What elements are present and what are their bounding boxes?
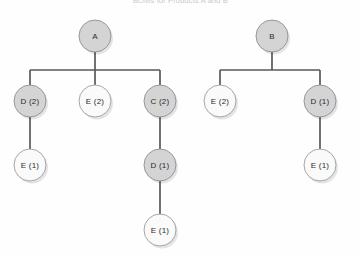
node-b-root-label: B <box>269 32 275 41</box>
node-a-c2[interactable]: C (2) <box>144 85 178 120</box>
node-a-e2[interactable]: E (2) <box>79 85 113 120</box>
node-b-d1[interactable]: D (1) <box>304 85 338 120</box>
node-a-e1-leaf-label: E (1) <box>151 226 169 235</box>
node-b-e1[interactable]: E (1) <box>304 149 338 184</box>
node-b-root[interactable]: B <box>256 20 290 55</box>
node-a-d1-under-c-label: D (1) <box>151 161 170 170</box>
node-a-d1-under-c[interactable]: D (1) <box>144 149 178 184</box>
node-a-e1-leaf[interactable]: E (1) <box>144 214 178 249</box>
node-a-e1-under-d-label: E (1) <box>21 161 39 170</box>
node-b-e2[interactable]: E (2) <box>204 85 238 120</box>
node-a-root-label: A <box>92 32 98 41</box>
node-a-d2[interactable]: D (2) <box>14 85 48 120</box>
tree-product-a: A D (2) E (2) C (2) <box>14 20 178 249</box>
bom-figure: BOMs for Products A and B A <box>0 0 361 256</box>
node-a-e1-under-d[interactable]: E (1) <box>14 149 48 184</box>
node-a-e2-label: E (2) <box>86 97 104 106</box>
node-b-e2-label: E (2) <box>211 97 229 106</box>
node-a-c2-label: C (2) <box>151 97 170 106</box>
node-b-e1-label: E (1) <box>311 161 329 170</box>
node-a-root[interactable]: A <box>79 20 113 55</box>
node-a-d2-label: D (2) <box>21 97 40 106</box>
tree-product-b: B E (2) D (1) E (1) <box>204 20 338 184</box>
bom-diagram-canvas: A D (2) E (2) C (2) <box>0 0 361 256</box>
node-b-d1-label: D (1) <box>311 97 330 106</box>
